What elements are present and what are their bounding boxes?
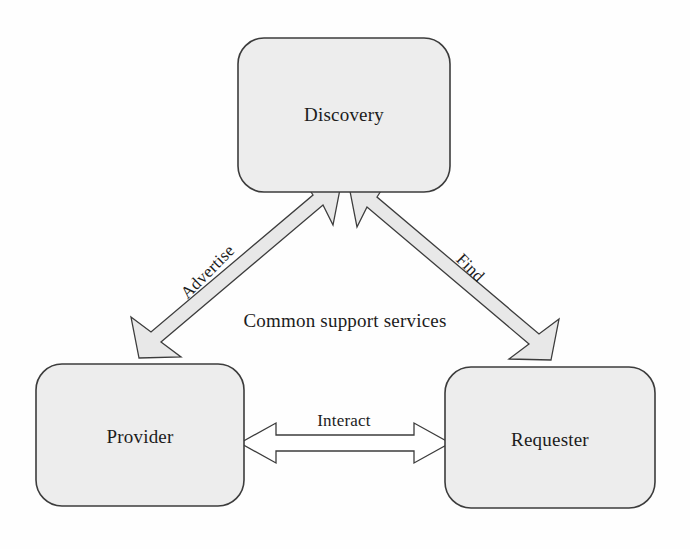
edge-advertise-arrow xyxy=(131,175,341,358)
diagram-canvas: Discovery Provider Requester Advertise F… xyxy=(0,0,690,549)
edge-find-arrow xyxy=(349,177,559,360)
node-discovery-box[interactable] xyxy=(238,38,450,192)
node-provider-box[interactable] xyxy=(36,364,244,506)
diagram-graphics xyxy=(0,0,690,549)
edge-interact-arrow xyxy=(240,423,450,463)
node-requester-box[interactable] xyxy=(445,367,655,508)
